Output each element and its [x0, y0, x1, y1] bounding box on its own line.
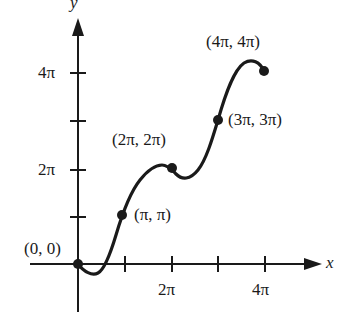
- point-4pi: [259, 66, 269, 76]
- point-origin: [73, 259, 83, 269]
- point-label-origin: (0, 0): [24, 240, 61, 257]
- point-label-pi: (π, π): [134, 206, 171, 223]
- x-axis-label: x: [326, 254, 334, 271]
- y-tick-label-4pi: 4π: [38, 64, 55, 81]
- x-axis-arrow-icon: [304, 258, 322, 270]
- y-tick-label-2pi: 2π: [38, 161, 55, 178]
- point-3pi: [213, 115, 223, 125]
- y-axis-arrow-icon: [72, 18, 84, 36]
- point-label-3pi: (3π, 3π): [228, 111, 282, 128]
- x-tick-label-4pi: 4π: [252, 281, 269, 298]
- point-label-2pi: (2π, 2π): [112, 131, 166, 148]
- figure: y x 4π 2π 2π 4π (0, 0) (π, π) (2π, 2π) (…: [0, 0, 356, 336]
- point-2pi: [167, 163, 177, 173]
- x-tick-label-2pi: 2π: [158, 281, 175, 298]
- y-axis-label: y: [70, 0, 78, 11]
- point-pi: [117, 210, 127, 220]
- point-label-4pi: (4π, 4π): [206, 33, 260, 50]
